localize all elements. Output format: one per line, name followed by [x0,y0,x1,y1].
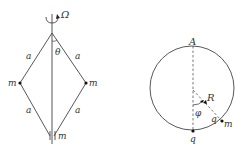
rod-upper-left [20,33,52,83]
mass-bottom-label: m [58,131,67,141]
rod-lower-right-label: a [75,105,80,115]
omega-label: Ω [60,9,69,20]
arrowhead-icon [56,14,60,19]
bottom-charge-dot [191,129,194,132]
radius-label: R [206,92,215,103]
phi-label: φ [195,108,202,118]
bead-mass-label: m [224,119,233,129]
mass-left-label: m [8,78,17,88]
rod-lower-left-label: a [26,105,31,115]
theta-arc [52,40,57,41]
mass-right-dot [84,81,87,84]
theta-label: θ [55,47,61,57]
ring [150,46,234,130]
rod-upper-right-label: a [75,51,80,61]
rod-upper-right [52,33,86,83]
charged-ring-figure: A R φ q m q [150,36,234,144]
bottom-charge-label: q [190,134,196,144]
mass-right-label: m [89,78,98,88]
bead-charge-label: q [211,114,217,124]
rod-upper-left-label: a [26,51,31,61]
diagram-canvas: Ω θ a a a a m m m [0,0,245,150]
rotating-rhombus-figure: Ω θ a a a a m m m [8,9,98,144]
rod-lower-left [20,83,50,136]
mass-left-dot [18,81,21,84]
rod-lower-right [54,83,86,136]
point-a-label: A [188,36,196,47]
